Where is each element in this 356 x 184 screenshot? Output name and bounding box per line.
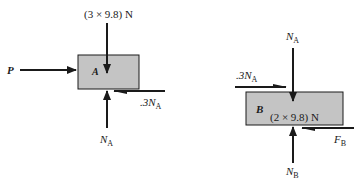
block-a-label: A <box>92 67 99 77</box>
normal-b-label: NB <box>286 166 299 180</box>
friction-a-label: .3NA <box>140 97 161 111</box>
normal-a-on-b-label: NA <box>286 31 299 45</box>
weight-b-label: (2 × 9.8) N <box>270 112 319 123</box>
force-p-label: P <box>7 65 14 76</box>
friction-a-on-b-label: .3NA <box>236 70 257 84</box>
normal-a-label: NA <box>100 134 113 148</box>
block-a <box>78 55 139 89</box>
weight-a-label: (3 × 9.8) N <box>84 9 133 20</box>
block-b-label: B <box>256 104 263 115</box>
friction-b-label: FB <box>334 134 346 148</box>
fbd-canvas <box>0 0 356 184</box>
